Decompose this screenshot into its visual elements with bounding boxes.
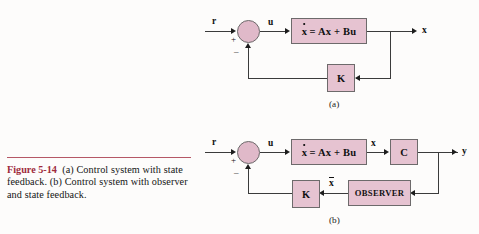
subcaption-b: (b): [329, 215, 340, 225]
state-arrowhead-into-c-b: [384, 149, 389, 155]
control-signal-arrowhead-b: [285, 149, 290, 155]
gain-block-k-b: K: [292, 180, 320, 208]
estimate-line-b: [321, 193, 348, 194]
signal-label-u-b: u: [268, 138, 273, 148]
ref-input-arrowhead-a: [231, 28, 236, 34]
observer-block-b: OBSERVER: [348, 180, 411, 206]
output-feedback-tap-b: [438, 152, 439, 193]
feedback-riser-b: [248, 169, 249, 193]
ref-input-line-a: [205, 31, 231, 32]
observer-input-line-b: [412, 193, 439, 194]
signal-label-y-b: y: [462, 146, 467, 156]
output-matrix-block-c-b: C: [390, 139, 418, 165]
observer-label-b: OBSERVER: [355, 188, 404, 198]
state-feedback-tap-a: [390, 31, 391, 78]
summing-plus-sign-b: +: [231, 156, 236, 165]
control-signal-line-a: [260, 31, 286, 32]
gain-label-k-b: K: [302, 189, 310, 200]
feedback-arrowhead-into-sum-b: [245, 164, 251, 169]
signal-label-u-a: u: [268, 17, 273, 27]
ref-input-line-b: [205, 152, 231, 153]
plant-equation-b: xx = Ax + Bu = Ax + Bu: [302, 147, 357, 158]
control-signal-arrowhead-a: [285, 28, 290, 34]
summing-minus-sign-a: –: [234, 47, 239, 56]
gain-label-k-a: K: [337, 73, 345, 84]
feedback-riser-a: [248, 48, 249, 78]
summing-minus-sign-b: –: [234, 168, 239, 177]
state-output-line-a: [367, 31, 415, 32]
control-signal-line-b: [260, 152, 286, 153]
output-arrowhead-b: [452, 149, 457, 155]
signal-label-r-b: r: [212, 137, 216, 147]
ref-input-arrowhead-b: [231, 149, 236, 155]
subcaption-a: (a): [329, 99, 339, 109]
feedback-line-left-b: [248, 193, 292, 194]
signal-label-r-a: r: [212, 16, 216, 26]
feedback-line-right-a: [356, 78, 391, 79]
state-output-arrowhead-a: [412, 28, 417, 34]
signal-label-xhat-b: x: [329, 178, 334, 188]
signal-label-x-a: x: [422, 25, 427, 35]
output-matrix-label-c-b: C: [400, 147, 408, 158]
feedback-arrowhead-into-sum-a: [245, 43, 251, 48]
state-line-b: [367, 152, 385, 153]
plant-block-b: xx = Ax + Bu = Ax + Bu: [291, 139, 367, 165]
feedback-line-left-a: [248, 78, 327, 79]
plant-equation-a: xx = Ax + Bu = Ax + Bu: [302, 26, 357, 37]
plant-block-a: xx = Ax + Bu = Ax + Bu: [291, 18, 367, 44]
gain-block-k-a: K: [327, 64, 355, 92]
figure-page: Figure 5-14 (a) Control system with stat…: [0, 0, 479, 234]
feedback-arrowhead-into-k-a: [355, 75, 360, 81]
summing-plus-sign-a: +: [231, 35, 236, 44]
block-diagram-a: r + – u xx = Ax + Bu = Ax + Bu x K: [0, 0, 479, 118]
block-diagram-b: r + – u xx = Ax + Bu = Ax + Bu x C y OB: [0, 122, 479, 234]
signal-label-x-b: x: [371, 138, 376, 148]
summing-junction-b: [237, 141, 260, 164]
summing-junction-a: [237, 20, 260, 43]
